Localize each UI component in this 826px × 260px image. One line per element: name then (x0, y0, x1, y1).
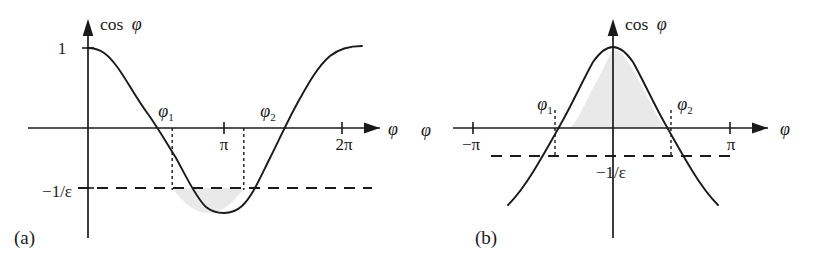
x-tick-label-neg-pi-b: −π (462, 135, 481, 154)
panel-caption-b: (b) (475, 227, 497, 249)
root-label-phi2-a: φ2 (260, 101, 275, 123)
panel-caption-a: (a) (14, 227, 35, 249)
root-label-phi1-b: φ1 (537, 94, 552, 116)
figure-container: cos φ 1 −1/ε π 2π φ1 φ2 φ (a) (0, 0, 826, 260)
x-tick-label-pi-a: π (220, 135, 229, 154)
x-tick-label-2pi-a: 2π (335, 135, 353, 154)
y-axis-label-b: cos φ (625, 14, 667, 34)
stray-axis-label-b: φ (421, 120, 431, 140)
y-axis-arrow-b (608, 19, 619, 36)
level-label-a: −1/ε (42, 182, 72, 201)
panel-a: cos φ 1 −1/ε π 2π φ1 φ2 φ (a) (0, 0, 413, 260)
level-label-b: −1/ε (596, 163, 626, 182)
y-axis-arrow-a (83, 19, 94, 36)
root-label-phi1-a: φ1 (158, 101, 173, 123)
x-axis-label-a: φ (388, 119, 398, 139)
x-tick-label-pi-b: π (727, 135, 736, 154)
y-tick-label-one-a: 1 (58, 39, 67, 58)
root-label-phi2-b: φ2 (677, 94, 692, 116)
y-axis-label-a: cos φ (100, 14, 142, 34)
x-axis-arrow-a (364, 123, 380, 134)
x-axis-arrow-b (752, 123, 768, 134)
panel-b: cos φ φ −π π −1/ε φ1 φ2 φ (b) (413, 0, 826, 260)
x-axis-label-b: φ (780, 119, 790, 139)
cosine-curve-a (88, 46, 362, 213)
